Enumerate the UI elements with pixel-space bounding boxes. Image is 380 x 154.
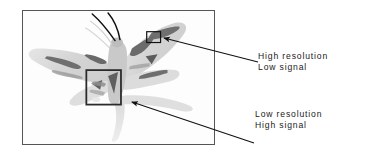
caption-high-resolution: High resolution Low signal xyxy=(258,51,328,73)
caption-low-resolution: Low resolution High signal xyxy=(255,109,322,131)
caption-high-resolution-line-1: High resolution xyxy=(258,51,328,62)
caption-high-resolution-line-2: Low signal xyxy=(258,62,328,73)
moth-head xyxy=(111,38,123,48)
micrograph-panel xyxy=(22,10,215,145)
caption-low-resolution-line-1: Low resolution xyxy=(255,109,322,120)
figure-root: High resolution Low signal Low resolutio… xyxy=(0,0,380,154)
caption-low-resolution-line-2: High signal xyxy=(255,120,322,131)
moth-micrograph xyxy=(23,11,214,144)
wing-marking-roi-dot xyxy=(92,97,100,102)
